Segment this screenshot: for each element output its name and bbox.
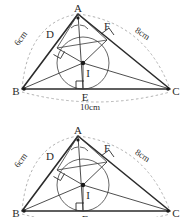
angle-arc-a-left-icon [71, 147, 78, 150]
vertex-dot-c [166, 209, 170, 213]
incenter-label-i: I [86, 67, 90, 79]
vertex-label-c: C [172, 85, 179, 97]
angle-arc-a-right-icon [80, 147, 88, 151]
vertex-dot-a [76, 138, 79, 141]
side-label-bc: 10cm [80, 102, 100, 112]
vertex-label-b: B [12, 85, 19, 97]
segment-d-to-a [57, 136, 78, 170]
figure-top: A B C D E F I 6cm 8cm 10cm [0, 0, 186, 120]
segment-f-to-a [78, 14, 107, 40]
incenter-point [81, 61, 85, 65]
side-label-ac: 8cm [133, 25, 151, 42]
vertex-label-a: A [74, 2, 82, 14]
angle-arc-a-left-icon [71, 25, 78, 28]
vertex-dot-a [76, 16, 79, 19]
angle-arc-a-right-icon [80, 25, 88, 29]
figure-bottom: A B C D E F I 6cm 8cm [0, 122, 186, 217]
vertex-label-e: E [82, 213, 89, 217]
vertex-label-a: A [74, 124, 82, 136]
side-label-ab: 6cm [12, 29, 29, 47]
vertex-label-b: B [12, 207, 19, 217]
incenter-label-i: I [86, 189, 90, 201]
segment-f-to-a [78, 136, 107, 162]
vertex-label-d: D [46, 150, 54, 162]
segment-d-to-a [57, 14, 78, 48]
triangle-abc [22, 136, 170, 211]
geometry-svg-top: A B C D E F I 6cm 8cm 10cm [0, 0, 186, 120]
triangle-abc [22, 14, 170, 89]
vertex-dot-c [166, 87, 170, 91]
vertex-label-c: C [172, 207, 179, 217]
vertex-dot-b [22, 87, 26, 91]
radius-i-to-d [57, 48, 83, 63]
incenter-point [81, 183, 85, 187]
geometry-svg-bottom: A B C D E F I 6cm 8cm [0, 122, 186, 217]
vertex-label-d: D [46, 28, 54, 40]
vertex-label-f: F [104, 142, 110, 154]
diagram-stage: A B C D E F I 6cm 8cm 10cm [0, 0, 186, 217]
radius-i-to-d [57, 170, 83, 185]
dashed-arc-bc [22, 92, 170, 102]
vertex-dot-b [22, 209, 26, 213]
vertex-label-f: F [104, 20, 110, 32]
side-label-ab: 6cm [12, 151, 29, 169]
side-label-ac: 8cm [133, 147, 151, 164]
dashed-arc-bc [22, 214, 170, 217]
